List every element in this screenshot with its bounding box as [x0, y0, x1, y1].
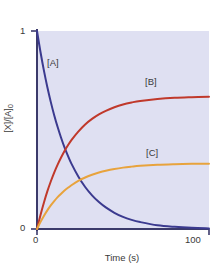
y-axis-title-subscript: 0	[6, 104, 15, 108]
y-axis-title-denominator: [A]	[3, 108, 13, 119]
y-tick-label-min: 0	[20, 222, 25, 233]
y-axis-title-numerator: [X]	[3, 122, 13, 133]
series-label-c: [C]	[146, 147, 158, 158]
series-label-b: [B]	[145, 76, 157, 87]
kinetics-chart-figure: [X]/[A]0 Time (s) 1 0 0 100 [A] [B] [C]	[0, 0, 217, 274]
x-tick-label-min: 0	[33, 234, 38, 245]
plot-background	[37, 31, 209, 229]
series-label-a: [A]	[47, 57, 59, 68]
y-axis-title-slash: /	[3, 119, 13, 122]
y-axis-title: [X]/[A]0	[3, 86, 16, 150]
x-tick-label-max: 100	[185, 234, 201, 245]
y-tick-label-max: 1	[20, 25, 25, 36]
plot-canvas	[0, 0, 217, 274]
x-axis-title: Time (s)	[34, 252, 210, 263]
